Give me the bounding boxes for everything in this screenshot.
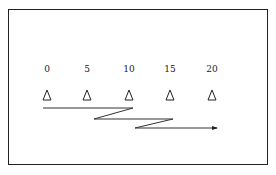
station-label-20: 20 <box>206 64 217 75</box>
station-label-10: 10 <box>123 64 134 75</box>
station-label-0: 0 <box>44 64 50 75</box>
triangle-icon <box>42 89 52 101</box>
triangle-icon <box>165 89 175 101</box>
station-label-5: 5 <box>84 64 90 75</box>
station-label-15: 15 <box>164 64 175 75</box>
triangle-icon <box>82 89 92 101</box>
diagram-frame <box>8 9 268 165</box>
triangle-icon <box>207 89 217 101</box>
triangle-icon <box>124 89 134 101</box>
